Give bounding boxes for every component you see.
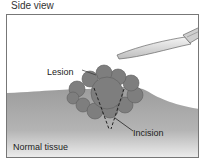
normal-tissue-label: Normal tissue (13, 142, 68, 152)
incision-label: Incision (133, 128, 164, 138)
scalpel-icon (117, 27, 199, 59)
lesion-label: Lesion (47, 67, 74, 77)
diagram-frame: Lesion Incision Normal tissue (6, 14, 199, 158)
side-view-illustration (7, 15, 199, 158)
diagram-title: Side view (11, 0, 54, 12)
